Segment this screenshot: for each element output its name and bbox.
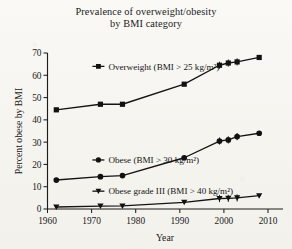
- x-axis-title: Year: [156, 232, 175, 243]
- data-point-square: [235, 59, 240, 64]
- data-point-square: [54, 107, 59, 112]
- line-chart: 010203040506070 196019701980199020002010…: [0, 0, 292, 249]
- data-point-circle: [225, 137, 231, 143]
- data-point-circle: [256, 130, 262, 136]
- x-tick-label: 2000: [215, 216, 234, 226]
- y-tick-label: 70: [32, 48, 42, 58]
- data-point-square: [257, 55, 262, 60]
- y-tick-label: 30: [32, 138, 42, 148]
- data-point-square: [96, 64, 101, 69]
- series-label: Overweight (BMI > 25 kg/m²): [108, 62, 219, 72]
- y-tick-label: 0: [37, 204, 42, 214]
- y-tick-label: 50: [32, 93, 42, 103]
- figure: Prevalence of overweight/obesity by BMI …: [0, 0, 292, 249]
- x-tick-label: 1960: [38, 216, 57, 226]
- data-point-circle: [234, 134, 240, 140]
- data-point-square: [120, 102, 125, 107]
- x-tick-label: 1990: [170, 216, 189, 226]
- series-label: Obese (BMI > 30 kg/m²): [108, 155, 199, 165]
- series-key-1: Obese (BMI > 30 kg/m²): [92, 155, 199, 165]
- data-point-circle: [96, 157, 101, 162]
- data-point-circle: [120, 173, 126, 179]
- data-point-circle: [217, 138, 223, 144]
- series-key-2: Obese grade III (BMI > 40 kg/m²): [92, 186, 233, 196]
- data-point-square: [182, 82, 187, 87]
- series-key-0: Overweight (BMI > 25 kg/m²): [92, 62, 219, 72]
- y-axis-ticks: 010203040506070: [32, 48, 47, 214]
- data-point-square: [98, 102, 103, 107]
- data-point-circle: [53, 177, 59, 183]
- y-tick-label: 10: [32, 182, 42, 192]
- data-point-circle: [98, 174, 104, 180]
- x-tick-label: 1980: [126, 216, 145, 226]
- x-axis-ticks: 196019701980199020002010: [38, 209, 278, 226]
- data-point-square: [226, 60, 231, 65]
- y-tick-label: 60: [32, 71, 42, 81]
- x-tick-label: 2010: [259, 216, 278, 226]
- series-label: Obese grade III (BMI > 40 kg/m²): [108, 186, 233, 196]
- x-tick-label: 1970: [82, 216, 101, 226]
- y-tick-label: 20: [32, 160, 42, 170]
- y-tick-label: 40: [32, 115, 42, 125]
- y-axis-title: Percent obese by BMI: [13, 88, 24, 174]
